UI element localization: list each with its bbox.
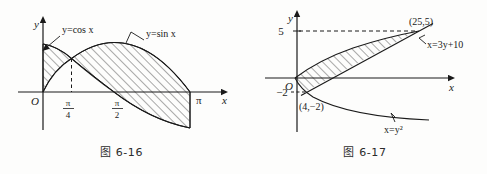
line-3y-plus-10 bbox=[301, 24, 433, 96]
point-25-5-label: (25,5) bbox=[409, 16, 433, 28]
point-4-minus-2-label: (4,−2) bbox=[299, 101, 324, 113]
parabola-label: x=y² bbox=[384, 124, 403, 135]
svg-text:π: π bbox=[66, 98, 71, 108]
sin-label-leader bbox=[131, 32, 144, 40]
cos-label-leader bbox=[47, 36, 60, 47]
svg-text:2: 2 bbox=[115, 110, 120, 120]
y-axis-label: y bbox=[287, 12, 293, 24]
y-tick-minus-2-label: −2 bbox=[276, 86, 288, 98]
x-axis-label: x bbox=[221, 94, 227, 106]
line-label-leader-arrow bbox=[419, 35, 425, 38]
figure-6-16: y x O y=cos x y=sin x π 4 π 2 π 图 6-16 bbox=[0, 0, 243, 174]
sin-curve-label: y=sin x bbox=[146, 28, 176, 39]
figure-6-16-caption: 图 6-16 bbox=[0, 143, 243, 159]
svg-text:4: 4 bbox=[66, 110, 71, 120]
sin-label-leader-arrow bbox=[126, 32, 131, 43]
region-right-lobe bbox=[72, 43, 191, 129]
shaded-region-parabola-line bbox=[295, 32, 415, 92]
line-label-leader bbox=[419, 38, 426, 44]
x-tick-pi-over-4: π 4 bbox=[63, 98, 74, 120]
x-axis-label: x bbox=[448, 81, 454, 93]
figure-6-17-caption: 图 6-17 bbox=[243, 143, 487, 159]
figure-sheet: y x O y=cos x y=sin x π 4 π 2 π 图 6-16 bbox=[0, 0, 487, 174]
origin-label: O bbox=[31, 95, 39, 107]
line-label: x=3y+10 bbox=[427, 39, 463, 50]
figure-6-17: y x O 5 −2 (25,5) (4,−2) x=3y+10 x=y² 图 … bbox=[243, 0, 487, 174]
figure-6-17-canvas: y x O 5 −2 (25,5) (4,−2) x=3y+10 x=y² bbox=[243, 0, 487, 140]
region-fill bbox=[295, 32, 415, 92]
y-axis-label: y bbox=[33, 18, 39, 30]
cos-curve-label: y=cos x bbox=[62, 24, 93, 35]
x-tick-pi: π bbox=[196, 94, 202, 106]
svg-text:π: π bbox=[115, 98, 120, 108]
figure-6-16-canvas: y x O y=cos x y=sin x π 4 π 2 π bbox=[0, 0, 243, 140]
x-tick-pi-over-2: π 2 bbox=[112, 98, 123, 120]
y-tick-5-label: 5 bbox=[278, 25, 284, 37]
